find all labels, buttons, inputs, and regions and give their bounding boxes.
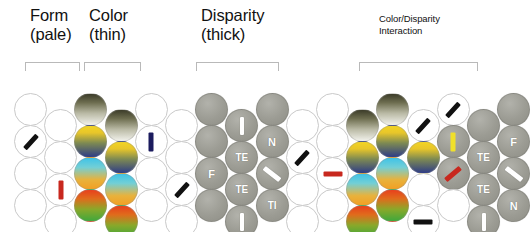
unit-circle [376,125,409,158]
unit-circle: N [497,189,530,222]
unit-circle [286,205,319,232]
unit-circle: TE [225,141,258,174]
unit-label: TE [226,142,257,173]
unit-circle [437,157,470,190]
unit-label: F [498,126,529,157]
unit-circle [74,189,107,222]
orientation-bar-red [444,165,462,181]
unit-circle [74,125,107,158]
unit-circle [14,189,47,222]
unit-circle [44,173,77,206]
orientation-bar-black [294,149,310,166]
unit-circle [14,157,47,190]
unit-circle: TI [256,189,289,222]
unit-circle: F [497,125,530,158]
unit-circle [346,109,379,142]
unit-circle [437,189,470,222]
unit-circle [346,173,379,206]
unit-circle [195,189,228,222]
unit-circle [135,157,168,190]
orientation-bar-red [58,180,63,199]
unit-circle [105,173,138,206]
circle-field: FTETENTITETEFN [0,0,530,232]
unit-circle [286,141,319,174]
orientation-bar-black [445,101,461,118]
orientation-bar-white [482,213,486,231]
unit-circle [467,109,500,142]
orientation-bar-white [240,213,244,231]
unit-circle [105,205,138,232]
unit-label: N [498,190,529,221]
unit-circle [467,205,500,232]
unit-circle [497,157,530,190]
unit-circle: TE [225,173,258,206]
unit-circle [316,125,349,158]
unit-circle [44,205,77,232]
unit-circle [256,93,289,126]
unit-label: F [196,158,227,189]
unit-circle [195,93,228,126]
unit-circle [165,141,198,174]
unit-circle [165,205,198,232]
unit-circle [44,141,77,174]
unit-circle [376,93,409,126]
unit-label: TE [468,142,499,173]
unit-circle [497,93,530,126]
unit-circle [135,189,168,222]
orientation-bar-red [323,171,342,176]
unit-label: N [257,126,288,157]
unit-circle [437,125,470,158]
unit-circle [74,157,107,190]
unit-circle [105,141,138,174]
unit-circle [407,173,440,206]
orientation-bar-white [240,117,244,135]
unit-circle [316,157,349,190]
unit-circle [346,141,379,174]
unit-circle: TE [467,141,500,174]
unit-circle [376,189,409,222]
unit-circle [286,109,319,142]
unit-circle [105,109,138,142]
unit-circle [44,109,77,142]
orientation-bar-black [174,181,190,198]
unit-circle [407,141,440,174]
unit-circle [407,205,440,232]
unit-label: TI [257,190,288,221]
unit-circle [437,93,470,126]
unit-circle: TE [467,173,500,206]
orientation-bar-yellow [451,132,456,151]
unit-circle [165,109,198,142]
unit-circle [316,189,349,222]
unit-circle [14,125,47,158]
unit-circle [165,173,198,206]
orientation-bar-white [504,165,523,181]
unit-circle [225,205,258,232]
unit-circle: F [195,157,228,190]
figure-root: Form (pale)Color (thin)Disparity (thick)… [0,0,530,232]
unit-circle [195,125,228,158]
orientation-bar-navy [149,132,154,151]
unit-label: TE [468,174,499,205]
orientation-bar-white [263,165,282,181]
unit-circle [225,109,258,142]
unit-circle [407,109,440,142]
unit-circle [14,93,47,126]
unit-circle [376,157,409,190]
unit-circle [135,125,168,158]
orientation-bar-black [414,219,433,224]
unit-circle [316,93,349,126]
unit-label: TE [226,174,257,205]
unit-circle: N [256,125,289,158]
unit-circle [286,173,319,206]
unit-circle [135,93,168,126]
orientation-bar-black [23,133,39,150]
orientation-bar-black [415,117,431,134]
unit-circle [346,205,379,232]
unit-circle [74,93,107,126]
unit-circle [256,157,289,190]
